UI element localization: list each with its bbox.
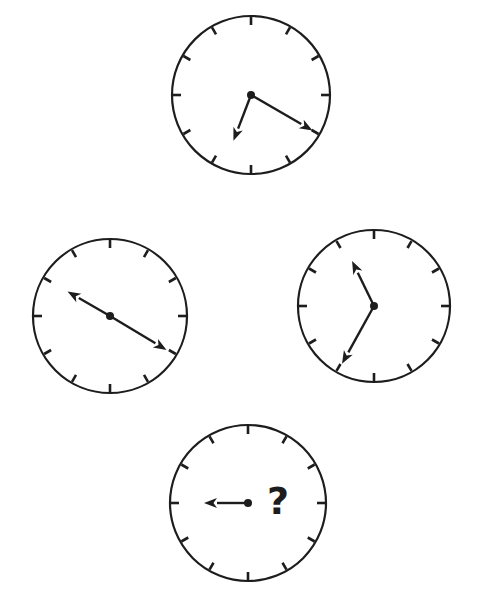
clock-left	[33, 239, 187, 393]
clock-hub-right	[370, 302, 378, 310]
clock-bottom: ?	[170, 425, 326, 581]
clock-hub-bottom	[244, 499, 252, 507]
question-mark: ?	[267, 479, 289, 523]
clock-top	[172, 16, 330, 174]
clock-hub-left	[106, 312, 114, 320]
clock-hub-top	[247, 91, 255, 99]
clock-right	[298, 230, 450, 382]
clock-puzzle-canvas: ?	[0, 0, 488, 600]
